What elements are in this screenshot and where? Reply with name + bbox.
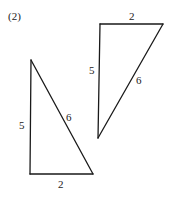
left-triangle-hypotenuse (31, 60, 93, 174)
right-triangle-hypotenuse (98, 24, 163, 138)
figure-label: (2) (8, 10, 21, 23)
left-triangle-base-label: 2 (58, 178, 64, 190)
right-triangle-top-label: 2 (129, 10, 135, 22)
right-triangle-vertical-label: 5 (89, 64, 95, 76)
left-triangle-hypotenuse-label: 6 (66, 111, 72, 123)
right-triangle-vertical-side (98, 24, 100, 138)
diagram-canvas: (2) 5 6 2 5 6 2 (0, 0, 172, 200)
right-triangle: 5 6 2 (89, 10, 163, 138)
left-triangle: 5 6 2 (19, 60, 93, 190)
left-triangle-vertical-label: 5 (19, 119, 25, 131)
right-triangle-hypotenuse-label: 6 (136, 74, 142, 86)
left-triangle-vertical-side (30, 60, 31, 174)
